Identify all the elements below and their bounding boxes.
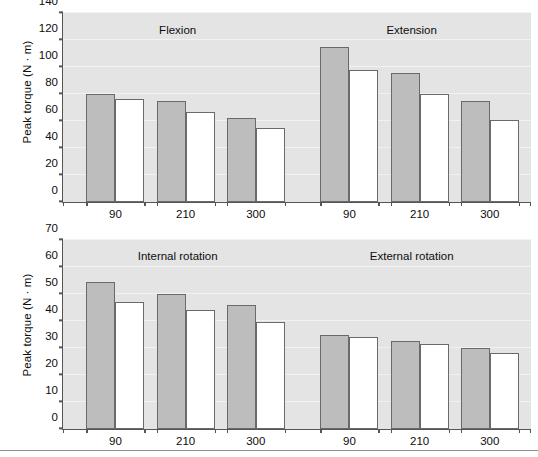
x-tick-mark	[530, 429, 531, 433]
bar-filled	[157, 101, 186, 202]
y-tick-mark	[59, 120, 63, 121]
group-label: Flexion	[159, 24, 196, 36]
y-tick-mark	[59, 293, 63, 294]
bar-filled	[86, 282, 115, 429]
y-tick-label: 20	[45, 157, 58, 169]
x-tick-label: 90	[343, 208, 356, 220]
bar-filled	[157, 294, 186, 429]
y-tick-label: 30	[45, 330, 58, 342]
x-tick-mark	[449, 202, 450, 206]
x-tick-mark	[215, 429, 216, 433]
y-tick-label: 0	[52, 411, 58, 423]
x-tick-mark	[227, 202, 228, 206]
x-tick-mark	[391, 429, 392, 433]
y-tick-label: 70	[45, 222, 58, 234]
bar-open	[256, 128, 285, 202]
x-tick-mark	[378, 429, 379, 433]
x-tick-label: 90	[109, 208, 122, 220]
y-tick-mark	[59, 266, 63, 267]
x-tick-label: 300	[480, 435, 499, 447]
x-tick-mark	[157, 429, 158, 433]
x-tick-label: 300	[246, 208, 265, 220]
x-tick-mark	[378, 202, 379, 206]
y-tick-label: 140	[39, 0, 58, 7]
bar-open	[256, 322, 285, 429]
figure-peak-torque: Peak torque (N · m) 02040608010012014090…	[0, 0, 538, 457]
y-tick-label: 100	[39, 49, 58, 61]
x-tick-label: 210	[176, 435, 195, 447]
gridline	[63, 12, 531, 13]
x-tick-mark	[461, 202, 462, 206]
x-tick-mark	[86, 202, 87, 206]
x-tick-label: 210	[410, 208, 429, 220]
y-tick-label: 40	[45, 303, 58, 315]
bar-filled	[320, 47, 349, 202]
y-tick-mark	[59, 174, 63, 175]
bar-filled	[391, 73, 420, 202]
x-tick-mark	[320, 429, 321, 433]
x-tick-label: 90	[343, 435, 356, 447]
bar-open	[186, 310, 215, 429]
x-tick-mark	[320, 202, 321, 206]
y-tick-label: 60	[45, 103, 58, 115]
gridline	[63, 39, 531, 40]
y-tick-mark	[59, 401, 63, 402]
y-tick-mark	[59, 374, 63, 375]
y-tick-label: 120	[39, 22, 58, 34]
y-axis-title-bottom: Peak torque (N · m)	[21, 240, 33, 410]
x-tick-mark	[227, 429, 228, 433]
y-tick-label: 0	[52, 184, 58, 196]
bar-filled	[461, 101, 490, 202]
bar-open	[186, 112, 215, 202]
y-tick-label: 40	[45, 130, 58, 142]
x-tick-mark	[519, 429, 520, 433]
y-tick-mark	[59, 147, 63, 148]
plot-area-bottom: 0102030405060709021030090210300Internal …	[62, 240, 531, 430]
y-tick-mark	[59, 320, 63, 321]
gridline	[63, 66, 531, 67]
bar-open	[490, 120, 519, 202]
bar-open	[115, 99, 144, 202]
bar-filled	[227, 305, 256, 429]
x-tick-mark	[391, 202, 392, 206]
y-tick-mark	[59, 66, 63, 67]
bar-filled	[227, 118, 256, 202]
x-tick-mark	[285, 429, 286, 433]
gridline	[63, 293, 531, 294]
x-tick-mark	[144, 429, 145, 433]
x-tick-label: 300	[480, 208, 499, 220]
bar-open	[490, 353, 519, 429]
x-tick-mark	[285, 202, 286, 206]
y-tick-label: 10	[45, 384, 58, 396]
x-tick-label: 300	[246, 435, 265, 447]
x-tick-mark	[63, 429, 64, 433]
bar-filled	[461, 348, 490, 429]
group-label: External rotation	[370, 250, 454, 262]
x-tick-mark	[157, 202, 158, 206]
gridline	[63, 266, 531, 267]
plot-area-top: 0204060801001201409021030090210300Flexio…	[62, 13, 531, 203]
bar-filled	[391, 341, 420, 429]
y-tick-label: 60	[45, 249, 58, 261]
x-tick-mark	[461, 429, 462, 433]
x-tick-label: 210	[176, 208, 195, 220]
gridline	[63, 93, 531, 94]
chart-panel-top: Peak torque (N · m) 02040608010012014090…	[0, 0, 538, 228]
y-axis-title-top: Peak torque (N · m)	[21, 7, 33, 177]
y-tick-mark	[59, 347, 63, 348]
footer-divider	[0, 450, 538, 451]
y-tick-mark	[59, 12, 63, 13]
x-tick-mark	[449, 429, 450, 433]
x-tick-mark	[63, 202, 64, 206]
y-tick-mark	[59, 239, 63, 240]
x-tick-mark	[86, 429, 87, 433]
bar-open	[420, 94, 449, 202]
x-tick-mark	[519, 202, 520, 206]
y-tick-mark	[59, 39, 63, 40]
bar-filled	[320, 335, 349, 430]
y-tick-label: 80	[45, 76, 58, 88]
chart-panel-bottom: Peak torque (N · m) 01020304050607090210…	[0, 228, 538, 457]
x-tick-mark	[144, 202, 145, 206]
bar-filled	[86, 94, 115, 202]
gridline	[63, 239, 531, 240]
